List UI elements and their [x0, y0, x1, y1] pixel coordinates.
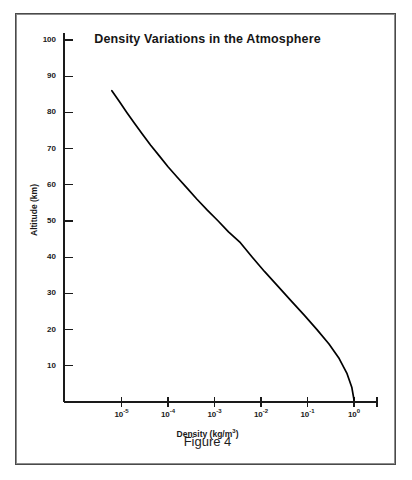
- x-tick-label: 10-5: [104, 410, 140, 419]
- y-tick-label: 20: [30, 325, 56, 334]
- chart-canvas: [17, 15, 398, 467]
- density-curve: [112, 91, 354, 400]
- figure-caption: Figure 4: [17, 434, 398, 449]
- x-tick-label: 10-1: [290, 410, 326, 419]
- x-tick-label: 100: [336, 410, 372, 419]
- data-series: [112, 91, 354, 400]
- x-tick-label: 10-4: [150, 410, 186, 419]
- y-tick-label: 90: [30, 71, 56, 80]
- y-tick-label: 10: [30, 361, 56, 370]
- plot-area: 100908070605040302010 10-510-410-310-210…: [17, 15, 398, 467]
- y-tick-label: 100: [30, 35, 56, 44]
- x-tick-label: 10-2: [243, 410, 279, 419]
- y-tick-label: 30: [30, 288, 56, 297]
- x-tick-label: 10-3: [197, 410, 233, 419]
- y-tick-label: 80: [30, 107, 56, 116]
- figure-frame: Density Variations in the Atmosphere 100…: [15, 13, 396, 465]
- y-axis-label: Altitude (km): [29, 165, 39, 255]
- y-tick-label: 70: [30, 144, 56, 153]
